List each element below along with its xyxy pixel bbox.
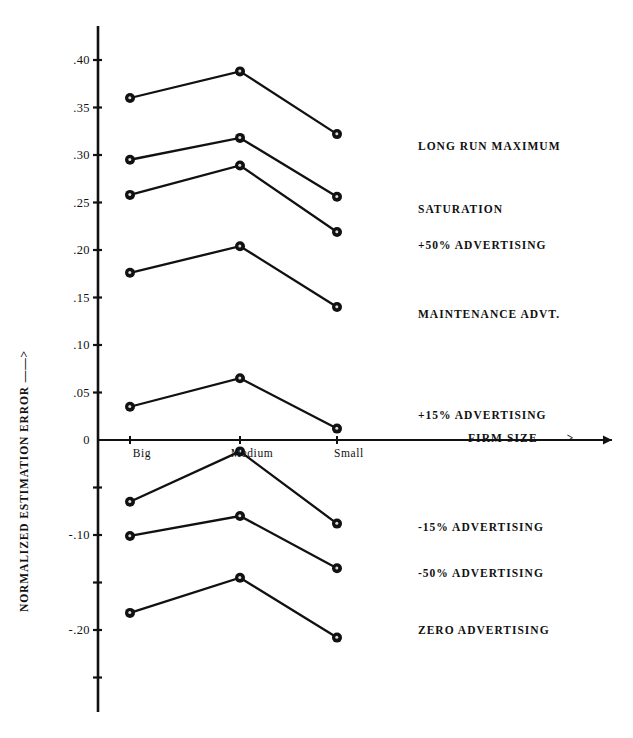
y-tick-label: .25: [46, 195, 90, 210]
y-tick-label: .05: [46, 385, 90, 400]
data-point-marker-center: [128, 271, 131, 274]
data-point-marker-center: [335, 566, 338, 569]
legend-label-0: LONG RUN MAXIMUM: [418, 140, 560, 152]
legend-label-3: MAINTENANCE ADVT.: [418, 308, 560, 320]
y-tick-label: .40: [46, 53, 90, 68]
data-point-marker-center: [128, 405, 131, 408]
data-point-marker-center: [238, 514, 241, 517]
data-point-marker-center: [335, 195, 338, 198]
data-point-marker-center: [335, 230, 338, 233]
series-0: [125, 66, 342, 139]
series-2: [125, 160, 342, 237]
series-3: [125, 241, 342, 312]
data-point-marker-center: [335, 427, 338, 430]
data-point-marker-center: [238, 70, 241, 73]
series-line: [130, 246, 337, 307]
series-line: [130, 516, 337, 568]
data-point-marker-center: [238, 376, 241, 379]
legend-label-7: ZERO ADVERTISING: [418, 624, 550, 636]
y-tick-label: .10: [46, 338, 90, 353]
y-tick-label: -.10: [46, 528, 90, 543]
legend-label-6: -50% ADVERTISING: [418, 567, 544, 579]
data-point-marker-center: [128, 96, 131, 99]
legend-label-1: SATURATION: [418, 203, 503, 215]
data-point-marker-center: [335, 636, 338, 639]
series-line: [130, 165, 337, 232]
series-line: [130, 378, 337, 428]
chart-figure: NORMALIZED ESTIMATION ERROR ——> FIRM SIZ…: [0, 0, 633, 738]
data-point-marker-center: [128, 158, 131, 161]
data-point-marker-center: [238, 244, 241, 247]
series-6: [125, 511, 342, 573]
y-tick-label: .15: [46, 290, 90, 305]
x-axis-arrow-icon: [603, 436, 612, 445]
x-tick-label-big: Big: [133, 447, 151, 459]
legend-label-5: -15% ADVERTISING: [418, 521, 544, 533]
y-tick-label: .30: [46, 148, 90, 163]
data-point-marker-center: [128, 193, 131, 196]
data-point-marker-center: [238, 576, 241, 579]
y-tick-label: 0: [46, 433, 90, 448]
data-point-marker-center: [335, 522, 338, 525]
series-4: [125, 373, 342, 433]
x-tick-label-small: Small: [334, 447, 364, 459]
series-line: [130, 71, 337, 134]
data-point-marker-center: [238, 136, 241, 139]
data-point-marker-center: [128, 534, 131, 537]
series-line: [130, 578, 337, 638]
legend-label-2: +50% ADVERTISING: [418, 239, 547, 251]
data-point-marker-center: [128, 611, 131, 614]
x-tick-label-medium: Medium: [231, 447, 274, 459]
y-tick-label: -.20: [46, 623, 90, 638]
y-tick-label: .20: [46, 243, 90, 258]
series-line: [130, 451, 337, 523]
data-point-marker-center: [335, 132, 338, 135]
y-tick-label: .35: [46, 100, 90, 115]
data-point-marker-center: [128, 500, 131, 503]
series-7: [125, 573, 342, 643]
data-point-marker-center: [238, 164, 241, 167]
legend-label-4: +15% ADVERTISING: [418, 409, 547, 421]
data-point-marker-center: [335, 305, 338, 308]
